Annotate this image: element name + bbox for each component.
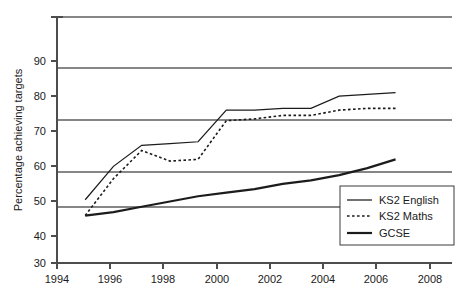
chart-legend: KS2 English KS2 Maths GCSE <box>340 186 454 245</box>
legend-label-ks2-maths: KS2 Maths <box>379 210 433 222</box>
x-tick-label-2008: 2008 <box>418 273 442 285</box>
chart-background <box>0 0 461 296</box>
y-tick-label-90: 90 <box>34 55 46 67</box>
x-tick-label-1996: 1996 <box>98 273 122 285</box>
y-tick-label-40: 40 <box>34 230 46 242</box>
x-tick-label-2002: 2002 <box>258 273 282 285</box>
x-tick-label-2004: 2004 <box>311 273 335 285</box>
x-tick-label-1994: 1994 <box>45 273 69 285</box>
chart-svg: 90 80 70 60 50 40 30 1994 1996 1998 2000… <box>0 0 461 296</box>
legend-label-gcse: GCSE <box>379 227 410 239</box>
legend-label-ks2-english: KS2 English <box>379 194 439 206</box>
y-tick-label-80: 80 <box>34 90 46 102</box>
x-tick-label-2006: 2006 <box>364 273 388 285</box>
line-chart: 90 80 70 60 50 40 30 1994 1996 1998 2000… <box>0 0 461 296</box>
y-tick-label-30: 30 <box>34 257 46 269</box>
x-tick-label-2000: 2000 <box>205 273 229 285</box>
x-tick-label-1998: 1998 <box>151 273 175 285</box>
y-tick-label-50: 50 <box>34 195 46 207</box>
y-tick-label-60: 60 <box>34 160 46 172</box>
y-tick-label-70: 70 <box>34 125 46 137</box>
y-axis-title: Percentage achieving targets <box>12 68 24 211</box>
